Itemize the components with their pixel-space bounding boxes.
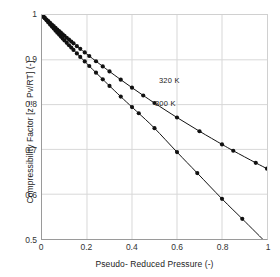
y-tick-label: 1 [1,10,37,19]
compressibility-factor-chart: 0.50.60.70.80.91 00.20.40.60.81 320 K 30… [0,0,280,277]
x-tick-label: 0.2 [66,243,106,252]
x-tick-label: 0.4 [112,243,152,252]
x-tick-label: 1 [248,243,280,252]
y-axis-title: Compressibility Factor [z = Pv/RT] (-) [25,22,35,242]
series-label-320k: 320 K [159,76,180,85]
x-tick-label: 0.6 [157,243,197,252]
x-tick-label: 0.8 [203,243,243,252]
x-axis-title: Pseudo- Reduced Pressure (-) [41,259,268,269]
series-label-300k: 300 K [155,99,176,108]
data-series-layer [42,15,267,239]
x-tick-label: 0 [21,243,61,252]
plot-area [41,14,268,240]
